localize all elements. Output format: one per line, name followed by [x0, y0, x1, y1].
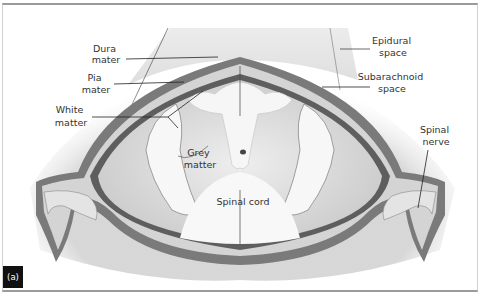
- label-spinal-cord: Spinal cord: [216, 196, 269, 207]
- label-grey-matter: Grey matter: [184, 147, 216, 170]
- label-epidural-space: Epidural space: [372, 35, 414, 58]
- label-white-matter: White matter: [55, 104, 87, 128]
- label-subarachnoid-space: Subarachnoid space: [358, 71, 426, 94]
- central-canal: [240, 150, 246, 155]
- label-spinal-nerve: Spinal nerve: [420, 124, 452, 147]
- spinal-cord-cross-section-diagram: Dura mater Pia mater White matter Grey m…: [0, 0, 480, 295]
- label-pia-mater: Pia mater: [82, 72, 111, 95]
- label-dura-mater: Dura mater: [92, 43, 121, 65]
- panel-label-badge: (a): [3, 266, 23, 288]
